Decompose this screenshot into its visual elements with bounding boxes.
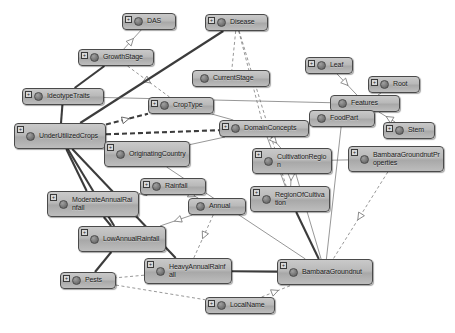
- class-bullet-icon: [360, 155, 369, 164]
- class-node-bgproperties[interactable]: +BambaraGroundnutProperties: [348, 146, 444, 172]
- class-node-label: Leaf: [330, 61, 349, 70]
- class-node-disease[interactable]: +Disease: [205, 14, 268, 31]
- class-node-bambara[interactable]: +BambaraGroundnut: [277, 259, 373, 285]
- class-node-underutilized[interactable]: +UnderUtilizedCrops: [14, 123, 106, 149]
- class-node-croptype[interactable]: +CropType: [148, 97, 214, 114]
- class-node-annual[interactable]: Annual: [188, 198, 246, 215]
- class-node-label: Rainfall: [165, 182, 202, 191]
- class-node-root[interactable]: +Root: [368, 76, 420, 93]
- expand-plus-icon[interactable]: +: [222, 123, 229, 130]
- class-bullet-icon: [317, 61, 326, 70]
- class-node-label: GrowthStage: [103, 53, 150, 62]
- class-bullet-icon: [262, 195, 271, 204]
- expand-plus-icon[interactable]: +: [255, 151, 262, 158]
- expand-plus-icon[interactable]: +: [151, 100, 158, 107]
- expand-plus-icon[interactable]: +: [208, 300, 215, 307]
- node-layer: +DAS+Disease+GrowthStageCurrentStage+Lea…: [0, 0, 455, 333]
- class-node-heavyrain[interactable]: +HeavyAnnualRainfall: [144, 258, 232, 284]
- expand-plus-icon[interactable]: +: [63, 275, 70, 282]
- class-bullet-icon: [34, 92, 43, 101]
- expand-plus-icon[interactable]: +: [208, 17, 215, 24]
- class-bullet-icon: [217, 18, 226, 27]
- class-node-label: BambaraGroundnut: [302, 268, 369, 277]
- class-node-label: LowAnnualRainfall: [103, 235, 162, 244]
- class-bullet-icon: [380, 80, 389, 89]
- expand-plus-icon[interactable]: +: [371, 79, 378, 86]
- class-node-domainconcepts[interactable]: +DomainConcepts: [219, 120, 309, 137]
- class-node-label: CropType: [173, 101, 210, 110]
- class-node-regionofcult[interactable]: +RegionOfCultivation: [250, 186, 330, 212]
- expand-plus-icon[interactable]: +: [107, 144, 114, 151]
- expand-plus-icon[interactable]: +: [386, 125, 393, 132]
- class-bullet-icon: [72, 276, 81, 285]
- class-bullet-icon: [200, 74, 209, 83]
- class-node-moderaterain[interactable]: +ModerateAnnualRainfall: [47, 191, 139, 217]
- class-bullet-icon: [231, 124, 240, 133]
- class-node-label: DAS: [147, 17, 172, 26]
- class-node-label: IdeotypeTraits: [47, 92, 100, 101]
- class-bullet-icon: [196, 202, 205, 211]
- class-node-label: HeavyAnnualRainfall: [169, 263, 228, 280]
- expand-plus-icon[interactable]: +: [280, 262, 287, 269]
- expand-plus-icon[interactable]: +: [81, 229, 88, 236]
- class-bullet-icon: [217, 301, 226, 310]
- class-node-label: LocalName: [230, 301, 271, 310]
- class-node-label: DomainConcepts: [244, 124, 305, 133]
- class-bullet-icon: [26, 132, 35, 141]
- class-bullet-icon: [90, 53, 99, 62]
- class-node-label: Features: [351, 99, 396, 108]
- expand-plus-icon[interactable]: +: [50, 194, 57, 201]
- class-node-label: FoodPart: [330, 114, 371, 123]
- ontology-graph-canvas[interactable]: +DAS+Disease+GrowthStageCurrentStage+Lea…: [0, 0, 455, 333]
- class-bullet-icon: [59, 200, 68, 209]
- class-node-stem[interactable]: +Stem: [383, 122, 435, 139]
- class-bullet-icon: [338, 99, 347, 108]
- class-node-foodpart[interactable]: FoodPart: [309, 110, 375, 127]
- class-bullet-icon: [264, 157, 273, 166]
- class-node-label: BambaraGroundnutProperties: [373, 151, 440, 168]
- class-node-leaf[interactable]: +Leaf: [305, 57, 353, 74]
- class-node-das[interactable]: +DAS: [122, 13, 176, 30]
- class-node-label: RegionOfCultivation: [275, 191, 326, 208]
- expand-plus-icon[interactable]: +: [125, 16, 132, 23]
- class-node-label: ModerateAnnualRainfall: [72, 196, 135, 213]
- expand-plus-icon[interactable]: +: [25, 91, 32, 98]
- expand-plus-icon[interactable]: +: [17, 126, 24, 133]
- class-node-label: CurrentStage: [213, 74, 266, 83]
- class-node-label: Annual: [209, 202, 242, 211]
- class-bullet-icon: [160, 101, 169, 110]
- class-node-cultivationreg[interactable]: +CultivationRegion: [252, 148, 332, 174]
- expand-plus-icon[interactable]: +: [308, 60, 315, 67]
- class-bullet-icon: [134, 17, 143, 26]
- class-node-label: OriginatingCountry: [129, 150, 186, 159]
- expand-plus-icon[interactable]: +: [253, 189, 260, 196]
- class-node-currentstage[interactable]: CurrentStage: [192, 70, 270, 87]
- class-bullet-icon: [116, 150, 125, 159]
- class-node-lowrain[interactable]: +LowAnnualRainfall: [78, 226, 166, 252]
- class-bullet-icon: [317, 114, 326, 123]
- class-node-label: Disease: [230, 18, 264, 27]
- class-bullet-icon: [156, 267, 165, 276]
- expand-plus-icon[interactable]: +: [147, 261, 154, 268]
- class-node-pests[interactable]: +Pests: [60, 272, 116, 289]
- class-node-growthstage[interactable]: +GrowthStage: [78, 49, 154, 66]
- expand-plus-icon[interactable]: +: [351, 149, 358, 156]
- class-node-label: Stem: [408, 126, 431, 135]
- expand-plus-icon[interactable]: +: [143, 181, 150, 188]
- class-bullet-icon: [152, 182, 161, 191]
- class-node-label: Pests: [85, 276, 112, 285]
- class-node-ideotypetraits[interactable]: +IdeotypeTraits: [22, 88, 104, 105]
- class-node-rainfall[interactable]: +Rainfall: [140, 178, 206, 195]
- class-bullet-icon: [395, 126, 404, 135]
- expand-plus-icon[interactable]: +: [81, 52, 88, 59]
- class-node-originating[interactable]: +OriginatingCountry: [104, 141, 190, 167]
- class-bullet-icon: [289, 268, 298, 277]
- class-node-localname[interactable]: +LocalName: [205, 297, 275, 314]
- class-node-label: Root: [393, 80, 416, 89]
- class-node-label: CultivationRegion: [277, 153, 328, 170]
- class-bullet-icon: [90, 235, 99, 244]
- class-node-label: UnderUtilizedCrops: [39, 132, 102, 141]
